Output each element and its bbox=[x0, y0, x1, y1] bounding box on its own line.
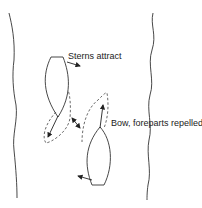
label-sterns-attract: Sterns attract bbox=[68, 51, 122, 61]
diagram-canvas: Sterns attract Bow, foreparts repelled bbox=[0, 0, 202, 208]
stern-attract-arrow bbox=[67, 62, 80, 66]
upper-boat-arrow bbox=[48, 116, 58, 137]
label-bow-repelled: Bow, foreparts repelled bbox=[111, 118, 202, 128]
repel-double-arrow bbox=[72, 118, 80, 128]
right-bank bbox=[147, 13, 154, 200]
lower-boat bbox=[87, 127, 110, 185]
left-bank bbox=[9, 13, 17, 198]
bow-repel-arrow bbox=[100, 105, 103, 128]
upper-boat bbox=[45, 57, 68, 117]
